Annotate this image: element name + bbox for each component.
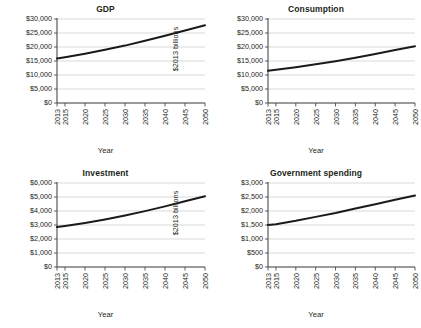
x-tick-label: 2015 [61,109,70,125]
x-tick-label: 2015 [272,273,281,289]
y-tick-label: $20,000 [237,42,263,51]
y-tick-label: $500 [247,248,263,257]
data-series-line [268,46,415,71]
x-tick-label: 2025 [101,273,110,289]
y-tick-label: $0 [255,262,263,271]
x-tick-label: 2020 [81,273,90,289]
y-tick-label: $2,000 [241,206,263,215]
y-tick-label: $15,000 [26,56,52,65]
data-series-line [268,196,415,225]
data-series-line [57,25,205,58]
x-tick-label: 2050 [411,109,420,125]
y-axis-label-government-spending: $2013 billions [171,176,182,250]
plot-area-consumption: $0$5,000$10,000$15,000$20,000$25,000$30,… [211,0,421,164]
y-tick-label: $6,000 [30,178,52,187]
x-axis-label-consumption: Year [211,146,421,155]
x-tick-label: 2045 [391,273,400,289]
x-axis-label-gdp: Year [0,146,211,155]
y-tick-label: $3,000 [30,220,52,229]
x-tick-label: 2040 [371,109,380,125]
y-tick-label: $1,500 [241,220,263,229]
x-tick-label: 2030 [332,273,341,289]
y-tick-label: $2,500 [241,192,263,201]
y-tick-label: $1,000 [241,234,263,243]
y-tick-label: $10,000 [237,70,263,79]
y-tick-label: $5,000 [30,84,52,93]
x-axis-label-government-spending: Year [211,310,421,319]
x-tick-label: 2035 [351,273,360,289]
x-tick-label: 2030 [332,109,341,125]
y-tick-label: $0 [44,262,52,271]
y-tick-label: $4,000 [30,206,52,215]
x-tick-label: 2050 [201,109,210,125]
y-tick-label: $3,000 [241,178,263,187]
panel-consumption: Consumption $2013 billions $0$5,000$10,0… [211,0,421,164]
plot-area-government-spending: $0$500$1,000$1,500$2,000$2,500$3,0002013… [211,164,421,328]
x-tick-label: 2025 [101,109,110,125]
x-tick-label: 2035 [351,109,360,125]
x-tick-label: 2045 [181,273,190,289]
x-tick-label: 2040 [161,109,170,125]
y-tick-label: $0 [44,98,52,107]
y-tick-label: $30,000 [26,14,52,23]
y-tick-label: $25,000 [237,28,263,37]
x-tick-label: 2015 [272,109,281,125]
x-tick-label: 2020 [292,109,301,125]
x-tick-label: 2045 [391,109,400,125]
x-tick-label: 2030 [121,273,130,289]
y-tick-label: $2,000 [30,234,52,243]
y-tick-label: $20,000 [26,42,52,51]
x-tick-label: 2050 [201,273,210,289]
y-tick-label: $15,000 [237,56,263,65]
x-tick-label: 2045 [181,109,190,125]
x-axis-label-investment: Year [0,310,211,319]
y-tick-label: $25,000 [26,28,52,37]
x-tick-label: 2040 [371,273,380,289]
y-tick-label: $10,000 [26,70,52,79]
x-tick-label: 2030 [121,109,130,125]
x-tick-label: 2035 [141,109,150,125]
y-tick-label: $1,000 [30,248,52,257]
x-tick-label: 2025 [312,273,321,289]
y-tick-label: $5,000 [241,84,263,93]
x-tick-label: 2050 [411,273,420,289]
x-tick-label: 2025 [312,109,321,125]
chart-grid: GDP $2013 billions $0$5,000$10,000$15,00… [0,0,421,328]
x-tick-label: 2040 [161,273,170,289]
y-tick-label: $30,000 [237,14,263,23]
y-axis-label-consumption: $2013 billions [171,12,182,86]
panel-government-spending: Government spending $2013 billions $0$50… [211,164,421,328]
data-series-line [57,196,205,227]
x-tick-label: 2035 [141,273,150,289]
x-tick-label: 2020 [81,109,90,125]
y-tick-label: $5,000 [30,192,52,201]
y-tick-label: $0 [255,98,263,107]
x-tick-label: 2015 [61,273,70,289]
x-tick-label: 2020 [292,273,301,289]
